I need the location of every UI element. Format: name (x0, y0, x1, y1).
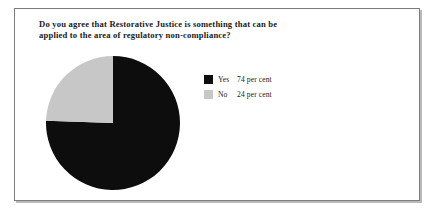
legend-label-yes: Yes (218, 75, 237, 84)
legend-value-yes: 74 per cent (237, 75, 272, 84)
legend-item-yes: Yes 74 per cent (204, 73, 384, 86)
legend-swatch-yes (204, 75, 213, 84)
chart-legend: Yes 74 per cent No 24 per cent (204, 73, 384, 103)
pie-slice-no (46, 56, 113, 123)
legend-label-no: No (218, 90, 237, 99)
figure-frame: Do you agree that Restorative Justice is… (14, 8, 420, 201)
legend-item-no: No 24 per cent (204, 88, 384, 101)
pie-chart (46, 56, 180, 190)
chart-title: Do you agree that Restorative Justice is… (39, 19, 389, 42)
legend-swatch-no (204, 90, 213, 99)
pie-chart-svg (46, 56, 180, 190)
legend-value-no: 24 per cent (237, 90, 272, 99)
